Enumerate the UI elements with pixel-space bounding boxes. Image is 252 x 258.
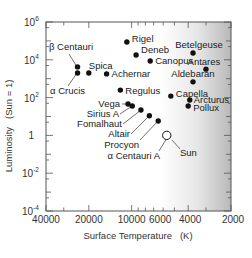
star-crucis-label: α Crucis (50, 85, 85, 96)
star-achernar-label: Achernar (112, 68, 151, 79)
star-antares-label: Antares (188, 56, 221, 67)
star-procyon-label: Procyon (104, 139, 139, 150)
star-aldebaran-label: Aldebaran (171, 68, 214, 79)
star-achernar-marker (104, 71, 109, 76)
star-capella-marker (168, 93, 173, 98)
star-sirius-a-marker (130, 103, 135, 108)
x-tick-label: 20000 (75, 214, 103, 225)
y-tick-labels: 106104102110-210-4 (22, 15, 39, 217)
star-rigel-marker (124, 39, 129, 44)
y-tick-label: 10-2 (22, 166, 39, 179)
y-tick-label: 106 (24, 15, 39, 28)
x-tick-label: 40000 (32, 214, 60, 225)
star-rigel-label: Rigel (132, 33, 154, 44)
x-axis-title: Surface Temperature (K) (83, 230, 192, 241)
y-tick-label: 102 (24, 91, 39, 104)
star-pollux-label: Pollux (193, 102, 219, 113)
star-aldebaran-marker (190, 79, 195, 84)
star-spica-marker (86, 70, 91, 75)
x-tick-label: 4000 (179, 214, 202, 225)
hr-diagram: RigelDenebCanopusBetelgeuseAntaresAldeba… (0, 0, 252, 258)
x-tick-label: 6000 (149, 214, 172, 225)
star-regulus-marker (118, 87, 123, 92)
star-centauri-marker (75, 64, 80, 69)
star-centauri-a-label: α Centauri A (108, 150, 161, 161)
star-canopus-marker (148, 58, 153, 63)
star-deneb-marker (133, 52, 138, 57)
y-axis-title: Luminosity (Sun = 1) (3, 80, 14, 173)
sun-marker (163, 131, 171, 139)
star-spica-label: Spica (89, 60, 113, 71)
star-altair-label: Altair (108, 128, 130, 139)
star-sun-label: Sun (180, 147, 197, 158)
star-fomalhaut-marker (138, 107, 143, 112)
x-tick-labels: 400002000010000600040002000 (32, 214, 244, 225)
x-tick-label: 2000 (222, 214, 245, 225)
star-procyon-marker (156, 118, 161, 123)
star-crucis-marker (75, 70, 80, 75)
star-regulus-label: Regulus (125, 85, 160, 96)
star-altair-marker (147, 113, 152, 118)
star-pollux-marker (185, 103, 190, 108)
y-tick-label: 104 (24, 53, 39, 66)
y-tick-label: 1 (28, 130, 34, 141)
x-tick-label: 10000 (118, 214, 146, 225)
star-centauri-label: β Centauri (49, 41, 93, 52)
star-betelgeuse-label: Betelgeuse (175, 39, 223, 50)
star-deneb-label: Deneb (141, 44, 169, 55)
